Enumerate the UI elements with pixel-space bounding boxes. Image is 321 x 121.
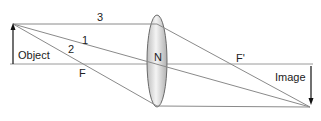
focal-point-back-label: F' — [236, 52, 245, 64]
ray-2-label: 2 — [68, 43, 74, 55]
image-label: Image — [275, 71, 306, 83]
focal-point-front-label: F — [79, 67, 86, 79]
lens-ray-diagram: 3 1 2 Object F N F' Image — [0, 0, 321, 121]
object-arrow-icon — [11, 23, 16, 64]
image-arrow-icon — [309, 66, 314, 105]
optical-center-label: N — [154, 51, 162, 63]
ray-1-label: 1 — [82, 34, 88, 46]
object-label: Object — [18, 49, 50, 61]
ray-3-label: 3 — [97, 11, 103, 23]
diagram-canvas: 3 1 2 Object F N F' Image — [0, 0, 321, 121]
